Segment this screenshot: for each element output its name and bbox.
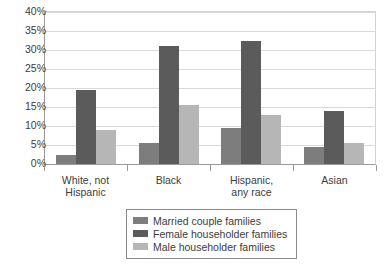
bar bbox=[179, 105, 199, 164]
bar bbox=[56, 155, 76, 165]
x-axis-tick bbox=[44, 165, 45, 171]
y-axis-tick-label: 15% bbox=[6, 101, 46, 112]
x-axis-tick bbox=[210, 165, 211, 171]
x-axis-tick bbox=[376, 165, 377, 171]
bar bbox=[344, 143, 364, 164]
x-axis-label: Black bbox=[127, 174, 210, 198]
bar bbox=[159, 46, 179, 164]
legend-swatch-icon bbox=[133, 217, 148, 224]
bar bbox=[304, 147, 324, 164]
legend-label: Male householder families bbox=[153, 241, 275, 253]
bar bbox=[261, 115, 281, 164]
y-axis-tick-label: 10% bbox=[6, 120, 46, 131]
legend-item: Male householder families bbox=[133, 240, 287, 253]
bar-group bbox=[293, 12, 376, 164]
y-axis-tick-label: 0% bbox=[6, 158, 46, 169]
bar-chart: 40%35%30%25%20%15%10%5%0% White, notHisp… bbox=[0, 0, 385, 266]
legend-item: Married couple families bbox=[133, 214, 287, 227]
bar-group bbox=[45, 12, 128, 164]
legend-swatch-icon bbox=[133, 230, 148, 237]
y-axis-tick-label: 40% bbox=[6, 6, 46, 17]
legend-label: Female householder families bbox=[153, 228, 287, 240]
y-axis-tick-label: 20% bbox=[6, 82, 46, 93]
legend-swatch-icon bbox=[133, 243, 148, 250]
bar bbox=[96, 130, 116, 164]
x-axis-label: Hispanic,any race bbox=[210, 174, 293, 198]
x-axis-labels: White, notHispanicBlackHispanic,any race… bbox=[44, 174, 376, 198]
y-axis-tick-label: 25% bbox=[6, 63, 46, 74]
bar bbox=[139, 143, 159, 164]
bar bbox=[324, 111, 344, 164]
x-axis-tick bbox=[127, 165, 128, 171]
bar bbox=[241, 41, 261, 165]
y-axis-tick-label: 5% bbox=[6, 139, 46, 150]
chart-legend: Married couple familiesFemale householde… bbox=[126, 209, 297, 259]
bar bbox=[221, 128, 241, 164]
x-axis-ticks bbox=[44, 165, 376, 172]
bar-group bbox=[128, 12, 211, 164]
bar-group bbox=[210, 12, 293, 164]
legend-item: Female householder families bbox=[133, 227, 287, 240]
plot-area bbox=[44, 11, 376, 165]
bar-groups bbox=[45, 12, 375, 164]
x-axis-label: White, notHispanic bbox=[44, 174, 127, 198]
legend-label: Married couple families bbox=[153, 215, 261, 227]
x-axis-label: Asian bbox=[293, 174, 376, 198]
x-axis-tick bbox=[293, 165, 294, 171]
y-axis-tick-label: 30% bbox=[6, 44, 46, 55]
bar bbox=[76, 90, 96, 164]
y-axis-tick-label: 35% bbox=[6, 25, 46, 36]
